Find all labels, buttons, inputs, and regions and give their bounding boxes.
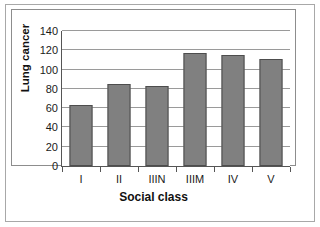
y-tick-label: 60: [12, 103, 58, 114]
plot-area: [62, 31, 290, 166]
y-tick-label: 120: [12, 45, 58, 56]
x-tick-mark: [176, 167, 177, 172]
x-tick-label-IIIM: IIIM: [176, 173, 214, 185]
bar-IV[interactable]: [222, 55, 245, 166]
bar-slot: [100, 31, 138, 166]
bar-IIIM[interactable]: [184, 53, 207, 166]
x-tick-mark: [62, 167, 63, 172]
bar-slot: [176, 31, 214, 166]
y-tick-label: 40: [12, 122, 58, 133]
bar-IIIN[interactable]: [146, 86, 169, 166]
bar-slot: [62, 31, 100, 166]
x-tick-mark: [252, 167, 253, 172]
x-tick-label-I: I: [62, 173, 100, 185]
x-tick-mark: [138, 167, 139, 172]
bar-slot: [252, 31, 290, 166]
y-tick-label: 0: [12, 161, 58, 172]
x-tick-label-IIIN: IIIN: [138, 173, 176, 185]
x-tick-label-V: V: [252, 173, 290, 185]
y-tick-label: 140: [12, 26, 58, 37]
x-axis-title: Social class: [11, 190, 296, 204]
x-tick-mark: [100, 167, 101, 172]
chart-figure: Lung cancer 020406080100120140 IIIIIINII…: [0, 0, 320, 227]
y-tick-label: 20: [12, 142, 58, 153]
y-axis-ticks: 020406080100120140: [8, 31, 58, 167]
y-tick-label: 80: [12, 84, 58, 95]
y-tick-label: 100: [12, 65, 58, 76]
bar-I[interactable]: [70, 105, 93, 166]
x-tick-label-II: II: [100, 173, 138, 185]
bar-series: [62, 31, 290, 166]
bar-slot: [138, 31, 176, 166]
x-tick-mark: [214, 167, 215, 172]
bar-II[interactable]: [108, 84, 131, 166]
x-tick-label-IV: IV: [214, 173, 252, 185]
bar-V[interactable]: [260, 59, 283, 166]
x-tick-mark: [290, 167, 291, 172]
bar-slot: [214, 31, 252, 166]
